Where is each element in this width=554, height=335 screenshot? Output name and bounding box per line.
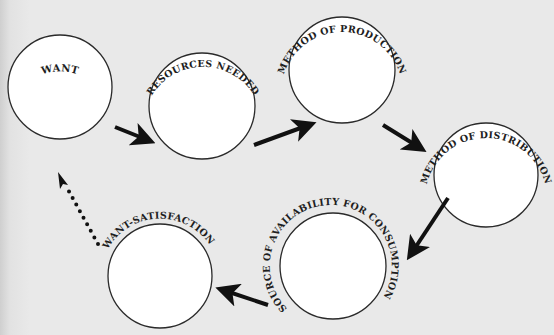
node-source-of-availability (280, 213, 386, 319)
node-want (8, 35, 112, 139)
cycle-diagram: WANT RESOURCES NEEDED METHOD OF PRODUCTI… (0, 0, 554, 335)
arrow-want-to-resources (115, 127, 145, 139)
arrow-production-to-distribution (383, 125, 417, 146)
dotted-arrow-satisfaction-to-want (66, 186, 98, 244)
arrow-resources-to-production (254, 126, 306, 145)
node-want-satisfaction (108, 224, 212, 328)
arrowhead-icon (58, 172, 68, 189)
arrow-distribution-to-source (413, 198, 448, 251)
arrow-source-to-satisfaction (226, 291, 268, 305)
diagram-canvas: WANT RESOURCES NEEDED METHOD OF PRODUCTI… (0, 0, 554, 335)
